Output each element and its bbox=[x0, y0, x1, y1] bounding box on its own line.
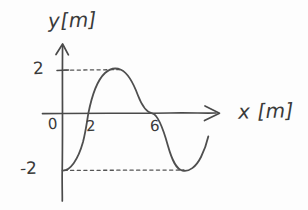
x-axis-label: x [m] bbox=[238, 98, 294, 123]
y-tick-label-negative: -2 bbox=[20, 158, 38, 179]
x-tick-label-2: 2 bbox=[86, 117, 96, 135]
x-tick-label-6: 6 bbox=[150, 117, 160, 135]
y-axis-label: y[m] bbox=[48, 7, 98, 33]
origin-label: 0 bbox=[47, 115, 58, 134]
sine-curve bbox=[63, 69, 209, 171]
y-tick-label-positive: 2 bbox=[32, 58, 44, 79]
figure-canvas: y[m] x [m] 2 -2 0 2 6 bbox=[0, 0, 308, 210]
x-axis-line bbox=[43, 113, 217, 114]
